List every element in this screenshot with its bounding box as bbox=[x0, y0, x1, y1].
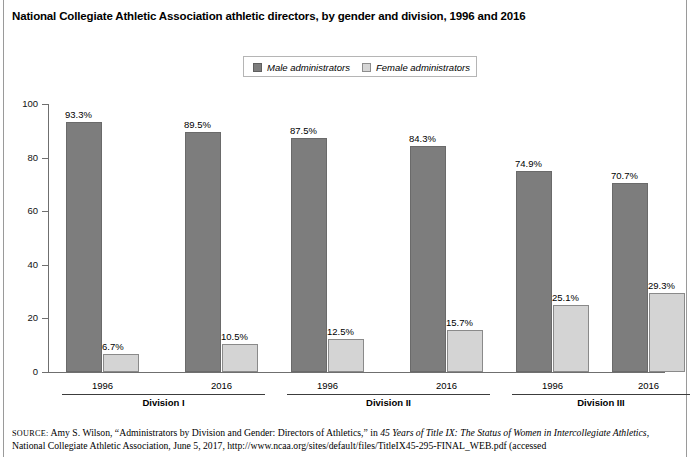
legend-swatch-male-icon bbox=[253, 63, 262, 72]
y-tick-label: 40 bbox=[8, 260, 38, 270]
page-right-rule bbox=[686, 0, 687, 457]
bar-female bbox=[222, 344, 258, 372]
x-axis-year-label: 2016 bbox=[619, 381, 679, 391]
legend-item-female: Female administrators bbox=[362, 60, 470, 74]
bar-value-label: 6.7% bbox=[102, 342, 152, 352]
division-group-rule bbox=[512, 394, 690, 395]
division-group-rule bbox=[62, 394, 265, 395]
y-tick-label: 100 bbox=[8, 99, 38, 109]
division-group-rule bbox=[287, 394, 490, 395]
bar-value-label: 25.1% bbox=[552, 293, 602, 303]
source-prefix: SOURCE: bbox=[12, 429, 49, 438]
y-tick-label: 20 bbox=[8, 313, 38, 323]
bar-value-label: 84.3% bbox=[409, 134, 459, 144]
bar-value-label: 10.5% bbox=[221, 332, 271, 342]
chart-legend: Male administrators Female administrator… bbox=[243, 56, 477, 77]
y-tick-label: 80 bbox=[8, 153, 38, 163]
legend-label-male: Male administrators bbox=[267, 62, 350, 73]
x-axis-year-label: 1996 bbox=[298, 381, 358, 391]
source-note: SOURCE: Amy S. Wilson, “Administrators b… bbox=[12, 427, 676, 453]
x-axis-year-label: 2016 bbox=[417, 381, 477, 391]
bar-female bbox=[649, 293, 685, 372]
source-italic-title: 45 Years of Title IX: The Status of Wome… bbox=[380, 427, 646, 438]
bar-male bbox=[291, 138, 327, 373]
bar-value-label: 87.5% bbox=[290, 126, 340, 136]
x-axis-year-label: 2016 bbox=[192, 381, 252, 391]
page-left-rule bbox=[3, 0, 4, 457]
y-tick-mark bbox=[42, 372, 48, 373]
chart-title: National Collegiate Athletic Association… bbox=[12, 9, 672, 23]
bar-value-label: 70.7% bbox=[611, 171, 661, 181]
bar-male bbox=[410, 146, 446, 372]
legend-label-female: Female administrators bbox=[376, 62, 470, 73]
bar-female bbox=[447, 330, 483, 372]
bar-male bbox=[516, 171, 552, 372]
source-text-part1: Amy S. Wilson, “Administrators by Divisi… bbox=[49, 427, 380, 438]
y-tick-label: 0 bbox=[8, 367, 38, 377]
bar-male bbox=[185, 132, 221, 372]
legend-swatch-female-icon bbox=[362, 63, 371, 72]
division-group-label: Division II bbox=[287, 398, 490, 408]
bar-value-label: 12.5% bbox=[327, 327, 377, 337]
bar-female bbox=[553, 305, 589, 372]
x-axis-year-label: 1996 bbox=[73, 381, 133, 391]
bar-value-label: 15.7% bbox=[446, 318, 496, 328]
bar-female bbox=[328, 339, 364, 373]
bar-male bbox=[612, 183, 648, 372]
bar-value-label: 29.3% bbox=[648, 281, 690, 291]
bar-male bbox=[66, 122, 102, 372]
figure-page: National Collegiate Athletic Association… bbox=[0, 0, 690, 457]
bar-value-label: 93.3% bbox=[65, 110, 115, 120]
y-tick-label: 60 bbox=[8, 206, 38, 216]
legend-item-male: Male administrators bbox=[253, 60, 350, 74]
division-group-label: Division I bbox=[62, 398, 265, 408]
x-axis-year-label: 1996 bbox=[523, 381, 583, 391]
bar-value-label: 89.5% bbox=[184, 120, 234, 130]
division-group-label: Division III bbox=[512, 398, 690, 408]
bar-female bbox=[103, 354, 139, 372]
bar-value-label: 74.9% bbox=[515, 159, 565, 169]
x-axis-line bbox=[48, 372, 665, 373]
plot-area: 93.3%6.7%89.5%10.5%87.5%12.5%84.3%15.7%7… bbox=[48, 104, 664, 372]
